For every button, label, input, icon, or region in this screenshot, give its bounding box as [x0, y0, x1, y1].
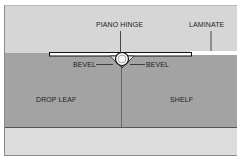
laminate-label: LAMINATE — [189, 21, 224, 29]
piano-hinge-label: PIANO HINGE — [96, 21, 143, 29]
bevel-right-label: BEVEL — [146, 61, 169, 69]
drop-leaf-label: DROP LEAF — [36, 96, 76, 104]
laminate-strip — [190, 51, 237, 55]
bevel-left-label: BEVEL — [73, 61, 96, 69]
shelf-label: SHELF — [170, 96, 193, 104]
